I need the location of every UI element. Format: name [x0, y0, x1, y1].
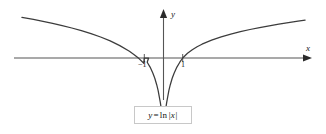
y-axis-arrowhead — [160, 9, 167, 18]
figure-container: x y −1 1 y=ln |x| — [0, 0, 326, 134]
equation-box: y=ln |x| — [134, 106, 192, 124]
equation-lhs: y — [148, 110, 152, 120]
equation-function: ln — [160, 110, 167, 120]
equation-argument: |x| — [168, 110, 178, 120]
curve-right-branch — [166, 20, 305, 107]
equation-equals: = — [153, 110, 160, 120]
x-axis-arrowhead — [303, 54, 312, 61]
y-axis-label: y — [171, 10, 175, 19]
tick-label-positive-one: 1 — [181, 61, 185, 69]
x-axis-label: x — [306, 44, 310, 53]
equation-text: y=ln |x| — [148, 110, 177, 120]
tick-label-negative-one: −1 — [138, 61, 147, 69]
